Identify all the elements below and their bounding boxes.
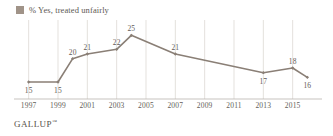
data-point-label: 18: [289, 57, 297, 66]
data-point-label: 20: [69, 48, 77, 57]
legend-label: % Yes, treated unfairly: [29, 5, 109, 15]
x-axis-labels: 1997199920012003200520072009201120132015: [0, 101, 333, 117]
x-axis-tick-label: 2001: [79, 101, 95, 110]
data-point-label: 15: [54, 86, 62, 95]
x-axis-tick-label: 2011: [226, 101, 242, 110]
plot-area: 15152021222521171816: [0, 20, 333, 100]
data-point-label: 25: [127, 24, 135, 33]
x-axis-tick-label: 2003: [109, 101, 125, 110]
x-axis-tick-label: 2009: [197, 101, 213, 110]
data-point-label: 15: [25, 86, 33, 95]
x-axis-tick-label: 2007: [167, 101, 183, 110]
x-axis-tick-label: 1997: [21, 101, 37, 110]
data-point-label: 21: [171, 43, 179, 52]
x-axis-tick-label: 2005: [138, 101, 154, 110]
series-line: [29, 35, 308, 82]
data-point-label: 16: [303, 81, 311, 90]
chart-container: % Yes, treated unfairly 1515202122252117…: [0, 0, 333, 136]
data-point-label: 22: [113, 38, 121, 47]
legend-swatch-icon: [16, 6, 24, 14]
data-point-label: 21: [83, 43, 91, 52]
data-point-marker: [27, 80, 30, 83]
gridlines: [29, 20, 293, 99]
x-axis-tick-label: 2013: [255, 101, 271, 110]
data-point-marker: [262, 71, 265, 74]
chart-legend: % Yes, treated unfairly: [16, 4, 109, 16]
gallup-brand-text: GALLUP: [14, 119, 52, 129]
gallup-brand: GALLUP™: [14, 119, 57, 129]
plot-svg: [0, 20, 333, 100]
trademark-symbol: ™: [52, 119, 57, 124]
data-point-label: 17: [259, 77, 267, 86]
x-axis-tick-label: 1999: [50, 101, 66, 110]
x-axis-tick-label: 2015: [285, 101, 301, 110]
